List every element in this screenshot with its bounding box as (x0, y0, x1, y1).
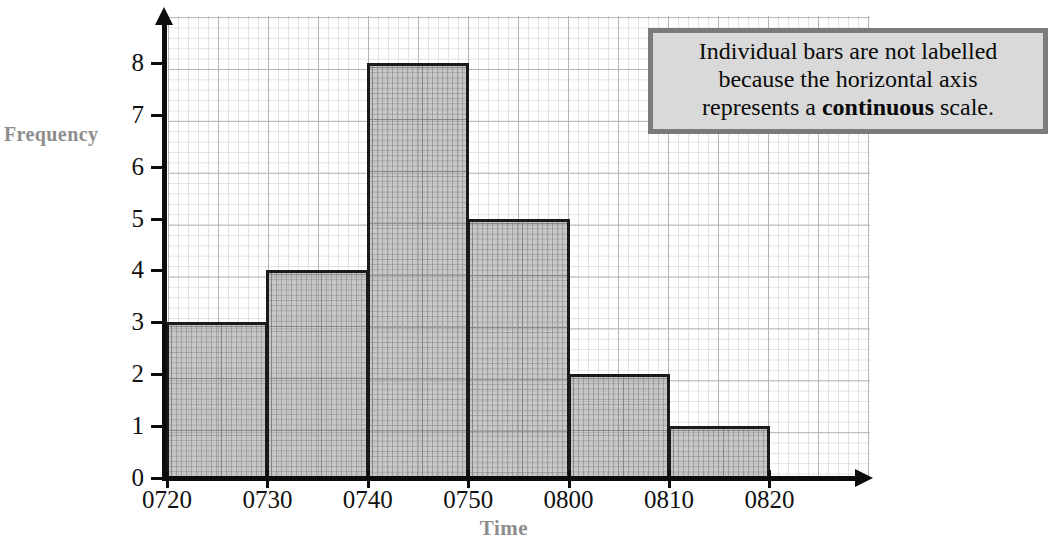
y-axis-tick (151, 373, 167, 376)
callout-line-3-pre: represents a (702, 94, 822, 120)
y-axis-tick (151, 477, 167, 480)
y-axis-tick-label: 6 (104, 154, 144, 179)
y-axis-tick (151, 321, 167, 324)
histogram-bar (266, 270, 368, 480)
y-axis-line (162, 22, 167, 480)
y-axis-tick-label: 4 (104, 257, 144, 282)
y-axis-tick (151, 425, 167, 428)
histogram-bar (467, 219, 569, 481)
x-axis-tick-label: 0730 (212, 487, 322, 512)
callout-line-1: Individual bars are not labelled (663, 38, 1033, 66)
x-axis-tick-label: 0750 (413, 487, 523, 512)
y-axis-tick-label: 2 (104, 361, 144, 386)
x-axis-tick-label: 0740 (313, 487, 423, 512)
callout-line-3-post: scale. (934, 94, 994, 120)
y-axis-tick (151, 269, 167, 272)
y-axis-tick (151, 62, 167, 65)
x-axis-tick-label: 0800 (514, 487, 624, 512)
y-axis-tick (151, 166, 167, 169)
y-axis-tick (151, 114, 167, 117)
x-axis-tick-label: 0720 (112, 487, 222, 512)
y-axis-tick-label: 1 (104, 413, 144, 438)
x-axis-tick-label: 0820 (714, 487, 824, 512)
callout-emphasis-continuous: continuous (822, 94, 934, 120)
x-axis-tick-label: 0810 (614, 487, 724, 512)
y-axis-tick-label: 5 (104, 206, 144, 231)
y-axis-tick-label: 7 (104, 102, 144, 127)
y-axis-arrow-icon (155, 7, 173, 25)
callout-line-2: because the horizontal axis (663, 66, 1033, 94)
histogram-bar (668, 426, 770, 480)
y-axis-tick-label: 3 (104, 309, 144, 334)
histogram-bar (166, 322, 268, 480)
callout-line-3: represents a continuous scale. (663, 94, 1033, 122)
y-axis-tick-label: 8 (104, 50, 144, 75)
x-axis-arrow-icon (855, 469, 873, 487)
x-axis-title: Time (444, 516, 564, 541)
histogram-bar (568, 374, 670, 480)
y-axis-tick (151, 218, 167, 221)
y-axis-title: Frequency (4, 123, 98, 146)
histogram-bar (367, 63, 469, 480)
annotation-callout: Individual bars are not labelled because… (648, 28, 1048, 134)
